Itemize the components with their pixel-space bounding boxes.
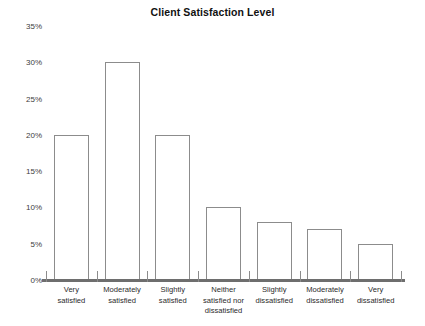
- bar: [206, 207, 241, 280]
- x-axis-category-label: Slightly satisfied: [147, 285, 198, 317]
- x-axis-category-label: Slightly dissatisfied: [249, 285, 300, 317]
- bar-slot: [350, 26, 401, 280]
- bar-series: [46, 26, 401, 280]
- y-axis-tick-label: 10%: [26, 203, 42, 212]
- y-axis: 0%5%10%15%20%25%30%35%: [0, 0, 42, 326]
- chart-title: Client Satisfaction Level: [0, 6, 425, 18]
- y-axis-tick-label: 25%: [26, 94, 42, 103]
- y-axis-tick-label: 35%: [26, 22, 42, 31]
- x-axis-category-label: Moderately dissatisfied: [300, 285, 351, 317]
- x-axis-tick: [401, 271, 402, 282]
- y-axis-tick-label: 0%: [30, 276, 42, 285]
- bar-slot: [97, 26, 148, 280]
- bar-slot: [198, 26, 249, 280]
- x-axis-tick: [46, 271, 47, 282]
- bar: [54, 135, 89, 280]
- x-axis-tick: [97, 271, 98, 282]
- x-axis-tick: [300, 271, 301, 282]
- x-axis-category-label: Moderately satisfied: [97, 285, 148, 317]
- x-axis-category-label: Very satisfied: [46, 285, 97, 317]
- x-axis-tick: [350, 271, 351, 282]
- y-axis-tick-label: 20%: [26, 130, 42, 139]
- bar: [105, 62, 140, 280]
- bar-chart: Client Satisfaction Level 0%5%10%15%20%2…: [0, 0, 425, 326]
- bar-slot: [147, 26, 198, 280]
- plot-area: [46, 26, 401, 280]
- bar: [155, 135, 190, 280]
- y-axis-tick-label: 15%: [26, 167, 42, 176]
- x-axis-tick: [198, 271, 199, 282]
- x-axis-tick: [147, 271, 148, 282]
- bar-slot: [300, 26, 351, 280]
- x-axis-category-label: Neither satisfied nor dissatisfied: [198, 285, 249, 317]
- x-axis-labels: Very satisfiedModerately satisfiedSlight…: [46, 285, 401, 317]
- bar-slot: [46, 26, 97, 280]
- x-axis-tick: [249, 271, 250, 282]
- bar-slot: [249, 26, 300, 280]
- x-axis-category-label: Very dissatisfied: [350, 285, 401, 317]
- y-axis-tick-label: 5%: [30, 239, 42, 248]
- x-axis-ticks: [46, 271, 401, 282]
- y-axis-tick-label: 30%: [26, 58, 42, 67]
